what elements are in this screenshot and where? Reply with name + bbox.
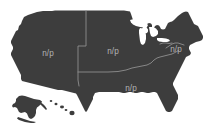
hawaii-island-molokai — [65, 109, 68, 111]
hawaii-island-hawaii — [69, 111, 74, 115]
hawaii-island-oahu — [55, 103, 58, 105]
region-label-northeast: n/p — [170, 45, 182, 54]
hawaii-island-maui — [60, 106, 64, 109]
region-label-south: n/p — [125, 84, 137, 93]
us-map-svg: n/p n/p n/p n/p — [0, 0, 216, 139]
us-region-map-widget: n/p n/p n/p n/p — [0, 0, 216, 139]
hawaii-island-kauai — [50, 100, 53, 102]
region-label-midwest: n/p — [107, 47, 119, 56]
region-label-west: n/p — [42, 49, 54, 58]
